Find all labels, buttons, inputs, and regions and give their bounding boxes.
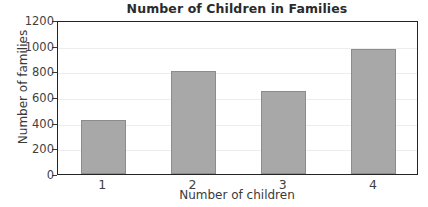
y-axis-label: Number of families	[16, 12, 30, 162]
y-tick-label: 600	[8, 91, 54, 105]
y-tick-mark	[52, 98, 57, 99]
y-tick-label: 1000	[8, 40, 54, 54]
x-axis-label: Number of children	[56, 188, 418, 202]
y-tick-mark	[52, 21, 57, 22]
y-tick-label: 200	[8, 142, 54, 156]
y-tick-label: 800	[8, 65, 54, 79]
bar	[261, 91, 306, 174]
y-tick-label: 400	[8, 117, 54, 131]
y-tick-mark	[52, 175, 57, 176]
plot-area	[57, 21, 418, 175]
bar-chart-figure: Number of Children in Families Number of…	[0, 0, 428, 207]
y-tick-label: 0	[8, 168, 54, 182]
chart-title: Number of Children in Families	[56, 1, 418, 16]
y-tick-mark	[52, 124, 57, 125]
y-tick-label: 1200	[8, 14, 54, 28]
bar	[81, 120, 126, 174]
bar	[351, 49, 396, 174]
y-tick-mark	[52, 47, 57, 48]
bar	[171, 71, 216, 174]
y-tick-mark	[52, 149, 57, 150]
y-tick-mark	[52, 72, 57, 73]
